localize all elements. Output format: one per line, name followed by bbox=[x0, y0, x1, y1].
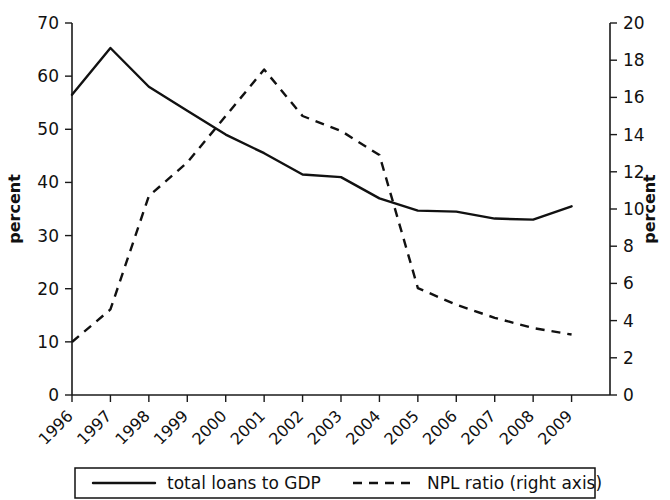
left-tick-label: 30 bbox=[37, 226, 59, 246]
right-tick-label: 2 bbox=[623, 348, 634, 368]
right-axis-title: percent bbox=[640, 174, 659, 244]
right-tick-label: 18 bbox=[623, 50, 645, 70]
right-tick-label: 16 bbox=[623, 87, 645, 107]
right-tick-label: 4 bbox=[623, 311, 634, 331]
line-chart: 010203040506070 percent 0246810121416182… bbox=[0, 0, 670, 500]
left-axis-title: percent bbox=[5, 174, 24, 244]
left-tick-label: 60 bbox=[37, 66, 59, 86]
right-tick-label: 0 bbox=[623, 385, 634, 405]
left-tick-label: 50 bbox=[37, 119, 59, 139]
chart-legend: total loans to GDPNPL ratio (right axis) bbox=[75, 468, 602, 498]
left-tick-label: 20 bbox=[37, 279, 59, 299]
right-tick-label: 6 bbox=[623, 273, 634, 293]
right-tick-label: 14 bbox=[623, 125, 645, 145]
left-tick-label: 40 bbox=[37, 172, 59, 192]
chart-container: 010203040506070 percent 0246810121416182… bbox=[0, 0, 670, 500]
left-tick-label: 70 bbox=[37, 13, 59, 33]
right-tick-label: 8 bbox=[623, 236, 634, 256]
left-tick-label: 0 bbox=[48, 385, 59, 405]
left-tick-label: 10 bbox=[37, 332, 59, 352]
legend-label: total loans to GDP bbox=[167, 473, 321, 493]
right-tick-label: 20 bbox=[623, 13, 645, 33]
legend-label: NPL ratio (right axis) bbox=[427, 473, 602, 493]
